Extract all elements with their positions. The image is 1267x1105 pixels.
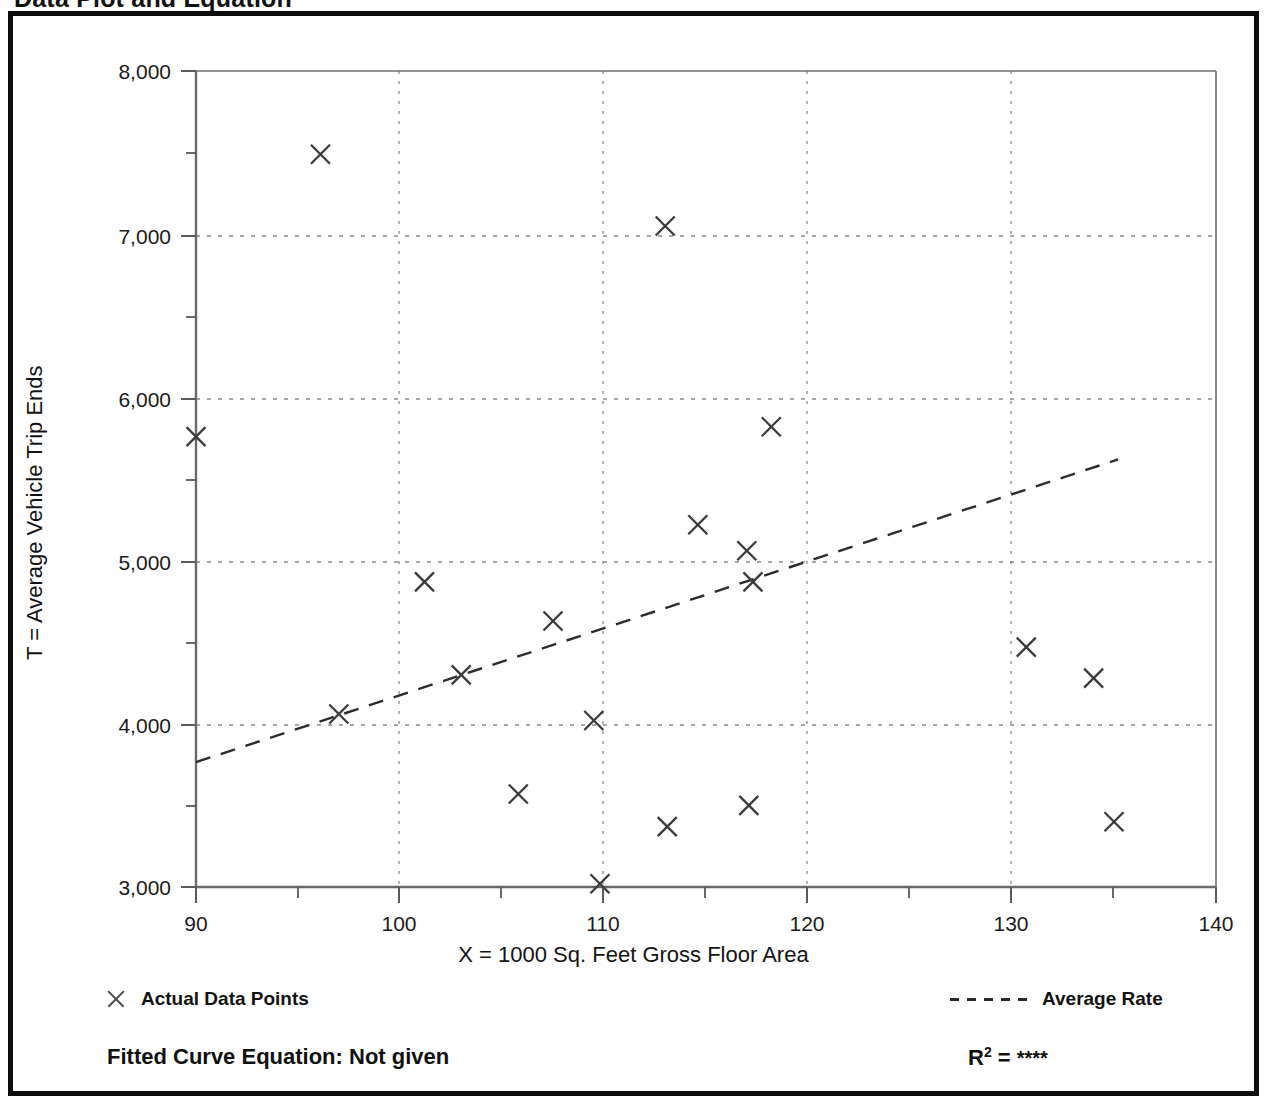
data-point-marker — [584, 711, 603, 730]
y-tick-label: 8,000 — [75, 60, 171, 84]
dashed-line-icon — [950, 998, 1028, 1001]
x-tick-label: 90 — [166, 912, 226, 936]
legend-item-actual-data-points: Actual Data Points — [105, 988, 309, 1010]
x-tick-label: 120 — [777, 912, 837, 936]
data-point-marker — [656, 217, 675, 236]
data-point-marker — [762, 417, 781, 436]
gridlines — [196, 71, 1216, 887]
data-point-marker — [658, 817, 677, 836]
x-tick-label: 130 — [981, 912, 1041, 936]
y-axis-title: T = Average Vehicle Trip Ends — [22, 0, 48, 300]
data-point-markers — [187, 145, 1124, 894]
x-marker-icon — [105, 988, 127, 1010]
r-squared-equals: = — [992, 1045, 1017, 1070]
data-point-marker — [1105, 812, 1124, 831]
data-point-marker — [509, 784, 528, 803]
y-tick-label: 4,000 — [75, 714, 171, 738]
y-axis-title-text: T = Average Vehicle Trip Ends — [22, 365, 48, 660]
legend-item-average-rate: Average Rate — [950, 988, 1163, 1010]
r-squared-symbol: R — [968, 1045, 984, 1070]
trend-line — [196, 459, 1118, 762]
y-tick-label: 7,000 — [75, 225, 171, 249]
average-rate-trend-line — [196, 459, 1118, 762]
data-point-marker — [452, 665, 471, 684]
data-point-marker — [311, 145, 330, 164]
legend-label: Actual Data Points — [141, 988, 309, 1010]
data-point-marker — [688, 515, 707, 534]
data-point-marker — [590, 874, 609, 893]
chart-plot-area: 8,000 7,000 6,000 5,000 4,000 3,000 90 1… — [13, 16, 1254, 1091]
data-point-marker — [1084, 669, 1103, 688]
x-tick-label: 110 — [573, 912, 633, 936]
chart-legend: Actual Data Points Average Rate — [0, 988, 1267, 1022]
x-tick-label: 140 — [1186, 912, 1246, 936]
r-squared-exponent: 2 — [984, 1044, 992, 1060]
x-tick-label: 100 — [369, 912, 429, 936]
chart-footer: Fitted Curve Equation: Not given R2 = **… — [0, 1044, 1267, 1080]
r-squared-stars: **** — [1017, 1047, 1048, 1069]
data-point-marker — [739, 796, 758, 815]
r-squared-value: R2 = **** — [968, 1044, 1048, 1071]
data-point-marker — [415, 572, 434, 591]
y-tick-label: 5,000 — [75, 551, 171, 575]
x-axis-title: X = 1000 Sq. Feet Gross Floor Area — [0, 942, 1267, 968]
data-point-marker — [737, 541, 756, 560]
y-tick-label: 3,000 — [75, 876, 171, 900]
fitted-curve-equation: Fitted Curve Equation: Not given — [107, 1044, 449, 1070]
figure-frame: 8,000 7,000 6,000 5,000 4,000 3,000 90 1… — [8, 11, 1259, 1096]
chart-axes — [181, 71, 1216, 903]
data-point-marker — [544, 611, 563, 630]
data-point-marker — [1017, 638, 1036, 657]
y-tick-label: 6,000 — [75, 388, 171, 412]
legend-label: Average Rate — [1042, 988, 1163, 1010]
